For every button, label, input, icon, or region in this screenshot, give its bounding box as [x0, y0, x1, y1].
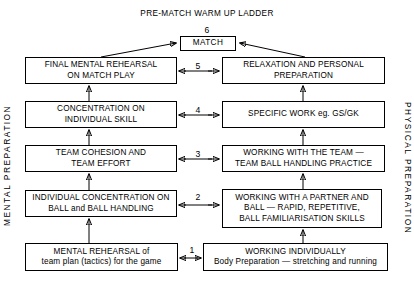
step-number-6: 6	[198, 25, 216, 35]
physical-box-step-2-line1: WORKING WITH A PARTNER AND	[235, 193, 369, 204]
physical-box-step-5-line2: PREPARATION	[274, 71, 333, 82]
physical-box-step-5: RELAXATION AND PERSONAL PREPARATION	[222, 57, 385, 84]
side-label-mental-preparation: MENTAL PREPARATION	[2, 90, 16, 240]
mental-box-step-3-line2: TEAM EFFORT	[71, 159, 130, 170]
mental-box-step-5-line1: FINAL MENTAL REHEARSAL	[45, 60, 158, 71]
physical-box-step-1: WORKING INDIVIDUALLY Body Preparation — …	[203, 243, 388, 271]
mental-box-step-3: TEAM COHESION AND TEAM EFFORT	[25, 145, 177, 172]
step-number-1: 1	[185, 245, 199, 255]
physical-box-step-1-line2: Body Preparation — stretching and runnin…	[214, 257, 377, 268]
physical-box-step-4: SPECIFIC WORK eg. GS/GK	[222, 101, 385, 128]
mental-box-step-2-line1: INDIVIDUAL CONCENTRATION ON	[32, 193, 169, 204]
mental-box-step-4-line1: CONCENTRATION ON	[57, 104, 145, 115]
arrow-physical5-to-match	[240, 43, 305, 57]
page-title: PRE-MATCH WARM UP LADDER	[0, 9, 414, 18]
match-box-label: MATCH	[193, 38, 224, 49]
arrow-mental5-to-match	[101, 43, 176, 57]
physical-box-step-3-line1: WORKING WITH THE TEAM —	[243, 148, 364, 159]
step-number-4: 4	[190, 105, 206, 115]
mental-box-step-5: FINAL MENTAL REHEARSAL ON MATCH PLAY	[25, 57, 177, 84]
step-number-2: 2	[190, 192, 206, 202]
match-box: MATCH	[180, 36, 236, 51]
mental-box-step-1: MENTAL REHEARSAL of team plan (tactics) …	[25, 243, 178, 271]
side-label-physical-preparation: PHYSICAL PREPARATION	[399, 88, 413, 248]
mental-box-step-1-line1: MENTAL REHEARSAL of	[54, 247, 150, 258]
mental-box-step-3-line1: TEAM COHESION AND	[56, 148, 146, 159]
physical-box-step-2-line3: BALL FAMILIARISATION SKILLS	[239, 214, 365, 225]
diagram-canvas: PRE-MATCH WARM UP LADDER 6 MATCH FINAL M…	[0, 0, 414, 285]
mental-box-step-2-line2: BALL and BALL HANDLING	[48, 204, 154, 215]
mental-box-step-4-line2: INDIVIDUAL SKILL	[65, 115, 138, 126]
mental-box-step-4: CONCENTRATION ON INDIVIDUAL SKILL	[25, 101, 177, 128]
step-number-3: 3	[190, 149, 206, 159]
physical-box-step-2: WORKING WITH A PARTNER AND BALL — RAPID,…	[222, 189, 382, 228]
physical-box-step-3: WORKING WITH THE TEAM — TEAM BALL HANDLI…	[222, 145, 385, 172]
physical-box-step-5-line1: RELAXATION AND PERSONAL	[243, 60, 364, 71]
mental-box-step-1-line2: team plan (tactics) for the game	[42, 257, 162, 268]
physical-box-step-3-line2: TEAM BALL HANDLING PRACTICE	[235, 159, 372, 170]
step-number-5: 5	[190, 61, 206, 71]
physical-box-step-2-line2: BALL — RAPID, REPETITIVE,	[244, 203, 360, 214]
mental-box-step-5-line2: ON MATCH PLAY	[67, 71, 135, 82]
mental-box-step-2: INDIVIDUAL CONCENTRATION ON BALL and BAL…	[25, 190, 177, 217]
physical-box-step-4-line1: SPECIFIC WORK eg. GS/GK	[248, 109, 359, 120]
physical-box-step-1-line1: WORKING INDIVIDUALLY	[245, 247, 346, 258]
